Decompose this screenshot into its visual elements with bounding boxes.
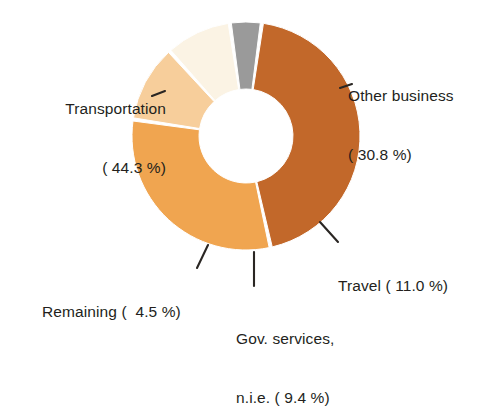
slice-label-transportation-name: Transportation [14,99,166,119]
donut-slice-group [132,22,360,250]
slice-label-transportation: Transportation ( 44.3 %) [14,60,166,216]
slice-label-gov-services: Gov. services, n.i.e. ( 9.4 %) [236,290,386,410]
slice-label-other-business-name: Other business [348,86,488,106]
slice-label-remaining-text: Remaining ( 4.5 %) [42,302,202,322]
slice-label-other-business: Other business ( 30.8 %) [348,47,488,203]
slice-label-remaining: Remaining ( 4.5 %) [42,263,202,361]
slice-label-gov-services-name: Gov. services, [236,329,386,349]
donut-slice-transportation[interactable] [253,23,360,247]
slice-label-other-business-value: ( 30.8 %) [348,145,488,165]
leader-line-travel [320,222,338,242]
slice-label-transportation-value: ( 44.3 %) [14,158,166,178]
slice-label-gov-services-value: n.i.e. ( 9.4 %) [236,388,386,408]
